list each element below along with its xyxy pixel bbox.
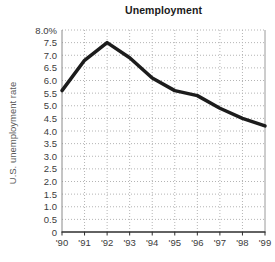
x-tick-label: '95 <box>169 237 181 248</box>
y-tick-label: 0 <box>52 227 57 238</box>
x-tick-label: '91 <box>78 237 90 248</box>
y-tick-label: 6.5 <box>44 62 57 73</box>
y-tick-label: 6.0 <box>44 75 57 86</box>
x-tick-label: '94 <box>146 237 158 248</box>
y-tick-label: 4.5 <box>44 113 57 124</box>
y-tick-label: 1.5 <box>44 189 57 200</box>
y-tick-label: 5.5 <box>44 88 57 99</box>
x-tick-label: '99 <box>259 237 271 248</box>
y-tick-label: 5.0 <box>44 100 57 111</box>
y-tick-label: 2.5 <box>44 163 57 174</box>
x-tick-label: '90 <box>56 237 68 248</box>
y-tick-label: 1.0 <box>44 201 57 212</box>
x-tick-label: '98 <box>236 237 248 248</box>
y-tick-label: 4.0 <box>44 126 57 137</box>
y-tick-label: 3.0 <box>44 151 57 162</box>
x-tick-label: '97 <box>214 237 226 248</box>
unemployment-chart: Unemployment U.S. unemployment rate 8.0%… <box>0 0 275 262</box>
y-tick-label: 0.5 <box>44 214 57 225</box>
y-tick-label: 8.0% <box>35 25 57 36</box>
y-tick-label: 2.0 <box>44 176 57 187</box>
chart-plot-area: 8.0%7.57.06.56.05.55.04.54.03.53.02.52.0… <box>0 0 275 262</box>
y-tick-label: 7.5 <box>44 37 57 48</box>
x-tick-label: '93 <box>123 237 135 248</box>
y-tick-label: 7.0 <box>44 50 57 61</box>
x-tick-label: '92 <box>101 237 113 248</box>
line-series <box>62 43 265 126</box>
y-tick-label: 3.5 <box>44 138 57 149</box>
x-tick-label: '96 <box>191 237 203 248</box>
